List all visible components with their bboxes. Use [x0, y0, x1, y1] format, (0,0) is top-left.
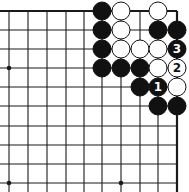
- black-stone: [131, 78, 149, 96]
- black-stone: [93, 59, 111, 77]
- white-stone: [112, 2, 130, 20]
- white-stone: [149, 2, 167, 20]
- white-stone: [131, 40, 149, 58]
- white-stone: [149, 40, 167, 58]
- white-stone: [112, 21, 130, 39]
- white-stone-move-2: 2: [168, 59, 186, 77]
- move-number-label: 2: [173, 61, 181, 75]
- go-board: 321: [0, 0, 189, 192]
- move-number-label: 1: [154, 80, 162, 94]
- black-stone: [93, 40, 111, 58]
- star-point-icon: [119, 181, 124, 186]
- star-point-icon: [7, 181, 12, 186]
- white-stone: [168, 78, 186, 96]
- black-stone: [112, 59, 130, 77]
- black-stone: [149, 97, 167, 115]
- white-stone: [149, 59, 167, 77]
- black-stone: [168, 97, 186, 115]
- star-point-icon: [7, 66, 12, 71]
- black-stone: [149, 21, 167, 39]
- black-stone-move-3: 3: [168, 40, 186, 58]
- black-stone: [93, 2, 111, 20]
- black-stone-move-1: 1: [149, 78, 167, 96]
- black-stone: [93, 21, 111, 39]
- black-stone: [168, 21, 186, 39]
- white-stone: [112, 40, 130, 58]
- black-stone: [131, 59, 149, 77]
- move-number-label: 3: [173, 42, 181, 56]
